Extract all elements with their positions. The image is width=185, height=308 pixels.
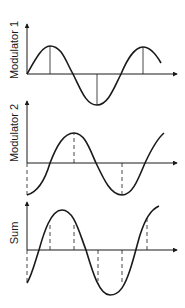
modulator-2-waveform [27, 133, 164, 195]
sum-panel [27, 202, 177, 295]
modulator-1-waveform [27, 46, 161, 105]
waveform-diagram [0, 0, 185, 308]
modulator-1-label: Modulator 1 [8, 21, 20, 79]
modulator-2-panel [27, 101, 177, 195]
sum-label: Sum [8, 222, 20, 245]
modulator-1-panel [27, 24, 177, 105]
modulator-2-label: Modulator 2 [8, 104, 20, 162]
